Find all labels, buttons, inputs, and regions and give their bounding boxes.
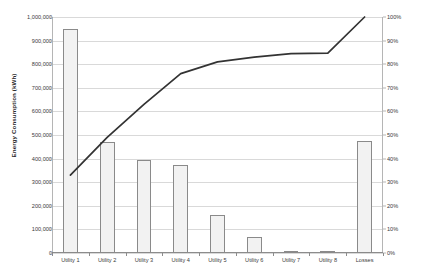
y-axis-tick-mark — [49, 205, 52, 206]
y-axis-tick-label: 1,000,000 — [8, 14, 52, 20]
x-axis-tick-mark — [126, 253, 127, 256]
y2-axis-tick-mark — [383, 182, 386, 183]
y-axis-tick-mark — [49, 87, 52, 88]
y-axis-tick-mark — [49, 64, 52, 65]
y2-axis-tick-mark — [383, 135, 386, 136]
cumulative-line-series — [52, 17, 383, 253]
x-axis-tick-label: Utility 5 — [208, 257, 226, 263]
x-axis-tick-label: Utility 2 — [98, 257, 116, 263]
x-axis-tick-label: Utility 4 — [172, 257, 190, 263]
x-axis-tick-label: Utility 1 — [61, 257, 79, 263]
gridline — [52, 253, 383, 254]
y-axis-tick-label: 400,000 — [8, 156, 52, 162]
x-axis-tick-mark — [236, 253, 237, 256]
x-axis-tick-label: Utility 3 — [135, 257, 153, 263]
y2-axis-tick-label: 90% — [387, 38, 415, 44]
y-axis-tick-mark — [49, 229, 52, 230]
y2-axis-tick-label: 70% — [387, 85, 415, 91]
x-axis-tick-mark — [52, 253, 53, 256]
y2-axis-tick-label: 80% — [387, 61, 415, 67]
x-axis-tick-label: Utility 8 — [319, 257, 337, 263]
y-axis-tick-label: 600,000 — [8, 108, 52, 114]
y2-axis-tick-label: 10% — [387, 226, 415, 232]
y-axis-tick-mark — [49, 40, 52, 41]
pareto-chart: Energy Consumption (kWh) 0100,000200,000… — [0, 0, 426, 274]
plot-area: 0100,000200,000300,000400,000500,000600,… — [52, 17, 383, 253]
y-axis-tick-mark — [49, 111, 52, 112]
cumulative-line-path — [70, 17, 364, 175]
y-axis-tick-mark — [49, 17, 52, 18]
y2-axis-tick-mark — [383, 64, 386, 65]
y2-axis-tick-mark — [383, 87, 386, 88]
x-axis-tick-label: Utility 7 — [282, 257, 300, 263]
y-axis-tick-label: 0 — [8, 250, 52, 256]
y-axis-tick-mark — [49, 182, 52, 183]
y-axis-tick-label: 900,000 — [8, 38, 52, 44]
y2-axis-tick-mark — [383, 205, 386, 206]
x-axis-tick-mark — [383, 253, 384, 256]
y2-axis-tick-label: 50% — [387, 132, 415, 138]
y-axis-tick-label: 300,000 — [8, 179, 52, 185]
y2-axis-tick-label: 40% — [387, 156, 415, 162]
y2-axis-tick-label: 20% — [387, 203, 415, 209]
x-axis-tick-label: Utility 6 — [245, 257, 263, 263]
y2-axis-tick-mark — [383, 229, 386, 230]
x-axis-tick-mark — [162, 253, 163, 256]
y2-axis-tick-label: 60% — [387, 108, 415, 114]
y-axis-tick-label: 500,000 — [8, 132, 52, 138]
y-axis-tick-label: 700,000 — [8, 85, 52, 91]
y-axis-tick-label: 100,000 — [8, 226, 52, 232]
y2-axis-tick-mark — [383, 158, 386, 159]
y2-axis-tick-label: 0% — [387, 250, 415, 256]
x-axis-tick-mark — [309, 253, 310, 256]
y-axis-tick-mark — [49, 135, 52, 136]
y2-axis-tick-mark — [383, 40, 386, 41]
y-axis-tick-label: 800,000 — [8, 61, 52, 67]
y-axis-tick-label: 200,000 — [8, 203, 52, 209]
y-axis-tick-mark — [49, 158, 52, 159]
x-axis-tick-mark — [273, 253, 274, 256]
y2-axis-tick-mark — [383, 17, 386, 18]
x-axis-tick-label: Losses — [356, 257, 374, 263]
y2-axis-tick-label: 30% — [387, 179, 415, 185]
y2-axis-tick-mark — [383, 111, 386, 112]
x-axis-tick-mark — [199, 253, 200, 256]
y2-axis-tick-label: 100% — [387, 14, 415, 20]
x-axis-tick-mark — [89, 253, 90, 256]
x-axis-tick-mark — [346, 253, 347, 256]
